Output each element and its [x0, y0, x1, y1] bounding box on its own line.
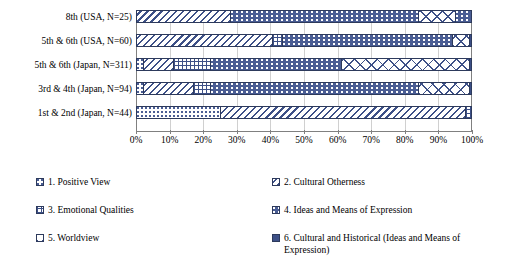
legend-label-ideas-means-expression: 4. Ideas and Means of Expression	[284, 204, 412, 216]
bar-segment-cultural-historical	[469, 34, 472, 47]
bar-segment-worldview	[418, 10, 455, 23]
bar-segment-cultural-otherness	[136, 34, 272, 47]
x-axis-tick-40: 40%	[262, 134, 279, 146]
legend-label-worldview: 5. Worldview	[48, 232, 99, 244]
x-axis-tick-60: 60%	[329, 134, 346, 146]
y-axis-label-3: 3rd & 4th (Japan, N=94)	[2, 84, 132, 95]
x-axis-tick-10: 10%	[161, 134, 178, 146]
legend-item-positive-view: 1. Positive View	[36, 176, 236, 188]
legend-swatch-cultural-historical-icon	[272, 234, 280, 242]
x-axis-tick-0: 0%	[130, 134, 143, 146]
bar-segment-cultural-otherness	[136, 10, 230, 23]
bar-segment-cultural-otherness	[143, 82, 193, 95]
legend-swatch-cultural-otherness-icon	[272, 178, 280, 186]
bar-segment-ideas-means-expression	[230, 10, 418, 23]
bar-segment-emotional-qualities	[173, 58, 210, 71]
legend-swatch-emotional-qualities-icon	[36, 206, 44, 214]
bar-segment-worldview	[418, 82, 468, 95]
bar-segment-emotional-qualities	[193, 82, 210, 95]
y-axis-label-2: 5th & 6th (Japan, N=311)	[2, 60, 132, 71]
x-axis-tick-90: 90%	[430, 134, 447, 146]
x-axis-tick-50: 50%	[295, 134, 312, 146]
bar-segment-ideas-means-expression	[210, 82, 418, 95]
x-axis-tick-labels: 0% 10% 20% 30% 40% 50% 60% 70% 80% 90% 1…	[136, 134, 472, 150]
bar-segment-cultural-otherness	[143, 58, 173, 71]
bar-segment-ideas-means-expression	[282, 34, 452, 47]
legend-item-cultural-historical: 6. Cultural and Historical (Ideas and Me…	[272, 232, 500, 256]
y-axis-label-4: 1st & 2nd (Japan, N=44)	[2, 108, 132, 119]
legend-item-cultural-otherness: 2. Cultural Otherness	[272, 176, 500, 188]
legend-item-ideas-means-expression: 4. Ideas and Means of Expression	[272, 204, 500, 216]
stacked-bar-chart-figure: 8th (USA, N=25) 5th & 6th (USA, N=60) 5t…	[0, 0, 521, 265]
bar-segment-cultural-historical	[469, 58, 472, 71]
bar-segment-positive-view	[136, 58, 143, 71]
bar-row	[136, 106, 472, 119]
bar-segment-cultural-otherness	[220, 106, 465, 119]
bar-segment-cultural-historical	[465, 106, 472, 119]
plot-area	[136, 10, 472, 132]
x-axis-tick-30: 30%	[228, 134, 245, 146]
bar-segment-worldview	[341, 58, 469, 71]
bar-row	[136, 10, 472, 23]
legend-label-cultural-otherness: 2. Cultural Otherness	[284, 176, 365, 188]
x-axis-tick-100: 100%	[461, 134, 483, 146]
legend-label-emotional-qualities: 3. Emotional Qualities	[48, 204, 134, 216]
y-axis-label-1: 5th & 6th (USA, N=60)	[2, 36, 132, 47]
bar-segment-worldview	[452, 34, 469, 47]
legend-label-cultural-historical: 6. Cultural and Historical (Ideas and Me…	[284, 232, 500, 256]
legend-item-worldview: 5. Worldview	[36, 232, 236, 244]
x-axis-tick-80: 80%	[396, 134, 413, 146]
x-axis-tick-70: 70%	[362, 134, 379, 146]
bar-segment-cultural-historical	[455, 10, 472, 23]
y-axis-label-0: 8th (USA, N=25)	[2, 12, 132, 23]
bar-row	[136, 34, 472, 47]
legend-swatch-ideas-means-expression-icon	[272, 206, 280, 214]
bar-segment-cultural-historical	[469, 82, 472, 95]
chart-legend: 1. Positive View 2. Cultural Otherness 3…	[0, 168, 521, 263]
bar-row	[136, 82, 472, 95]
legend-swatch-positive-view-icon	[36, 178, 44, 186]
bar-segment-positive-view	[136, 82, 143, 95]
x-axis-tick-20: 20%	[194, 134, 211, 146]
bar-segment-ideas-means-expression	[210, 58, 341, 71]
y-axis-category-labels: 8th (USA, N=25) 5th & 6th (USA, N=60) 5t…	[0, 10, 132, 132]
legend-swatch-worldview-icon	[36, 234, 44, 242]
bar-segment-emotional-qualities	[272, 34, 282, 47]
bar-row	[136, 58, 472, 71]
legend-label-positive-view: 1. Positive View	[48, 176, 110, 188]
legend-item-emotional-qualities: 3. Emotional Qualities	[36, 204, 236, 216]
bar-segment-positive-view	[136, 106, 220, 119]
